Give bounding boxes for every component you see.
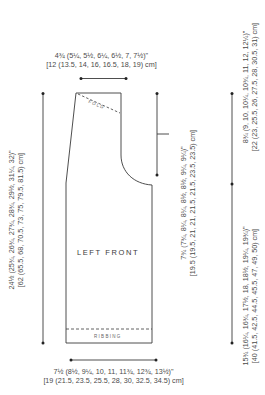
upper-length-metric: [22 (23, 25.5, 26, 27.5, 28, 30.5, 31) c… <box>250 2 259 172</box>
armhole-depth-imperial: 7¾ (7¾, 8¼, 8¼, 8½, 8½, 9¼, 9¼)" <box>179 103 188 303</box>
total-length-metric: [62 (65.5, 68, 70.5, 73, 75, 79.5, 81.5)… <box>16 120 25 320</box>
ribbing-label: RIBBING <box>94 334 122 339</box>
lower-length-metric: [40 (41.5, 42.5, 44.5, 45.5, 47, 49, 50)… <box>250 201 259 391</box>
total-length-imperial: 24½ (25¾, 26¾, 27¾, 28¾, 29½, 31¼, 32)" <box>7 120 16 320</box>
armhole-depth-label: 7¾ (7¾, 8¼, 8¼, 8½, 8½, 9¼, 9¼)" [19.5 (… <box>179 103 199 303</box>
side-length-dimension <box>231 92 234 345</box>
shoulder-width-imperial: 4¾ (5¼, 5½, 6¼, 6½, 7, 7½)" <box>0 51 203 60</box>
bottom-width-metric: [19 (21.5, 23.5, 25.5, 28, 30, 32.5, 34.… <box>0 376 227 385</box>
bottom-width-imperial: 7½ (8½, 9¼, 10, 11, 11¾, 12¾, 13½)" <box>0 367 227 376</box>
armhole-depth-metric: [19.5 (19.5, 21, 21, 21.5, 21.5, 23.5, 2… <box>188 103 197 303</box>
upper-length-imperial: 8¾ (9, 10, 10¼, 10¾, 11, 12, 12¼)" <box>241 2 250 172</box>
armhole-depth-dimension <box>156 92 170 177</box>
shoulder-width-label: 4¾ (5¼, 5½, 6¼, 6½, 7, 7½)" [12 (13.5, 1… <box>0 51 203 69</box>
total-length-dimension <box>42 92 45 345</box>
lower-length-label: 15¾ (16¼, 16¾, 17½, 18, 18½, 19¼, 19¾)" … <box>241 201 261 391</box>
shoulder-width-metric: [12 (13.5, 14, 16, 16.5, 18, 19) cm] <box>0 60 203 69</box>
bottom-width-dimension <box>70 359 158 362</box>
left-front-outline <box>66 93 152 343</box>
bottom-width-label: 7½ (8½, 9¼, 10, 11, 11¾, 12¾, 13½)" [19 … <box>0 367 227 385</box>
lower-length-imperial: 15¾ (16¼, 16¾, 17½, 18, 18½, 19¼, 19¾)" <box>241 201 250 391</box>
total-length-label: 24½ (25¾, 26¾, 27¾, 28¾, 29½, 31¼, 32)" … <box>7 120 27 320</box>
piece-name-label: LEFT FRONT <box>77 248 139 257</box>
upper-length-label: 8¾ (9, 10, 10¼, 10¾, 11, 12, 12¼)" [22 (… <box>241 2 261 172</box>
shoulder-width-dimension <box>80 77 128 80</box>
